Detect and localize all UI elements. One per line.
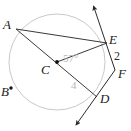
- angle-measure-2: 2: [114, 50, 120, 62]
- point-label-a: A: [3, 18, 11, 31]
- point-label-b: B: [1, 85, 9, 98]
- geometry-diagram: A B C D E F 57° 4 2: [0, 0, 131, 131]
- angle-measure-57: 57°: [63, 53, 78, 64]
- geometry-canvas: [0, 0, 131, 131]
- point-label-f: F: [118, 67, 126, 80]
- arc-measure-4: 4: [71, 80, 77, 91]
- point-label-c: C: [41, 63, 50, 76]
- point-label-d: D: [100, 92, 109, 105]
- center-point-dot: [55, 60, 59, 64]
- point-label-e: E: [109, 33, 117, 46]
- point-b-dot: [9, 86, 12, 89]
